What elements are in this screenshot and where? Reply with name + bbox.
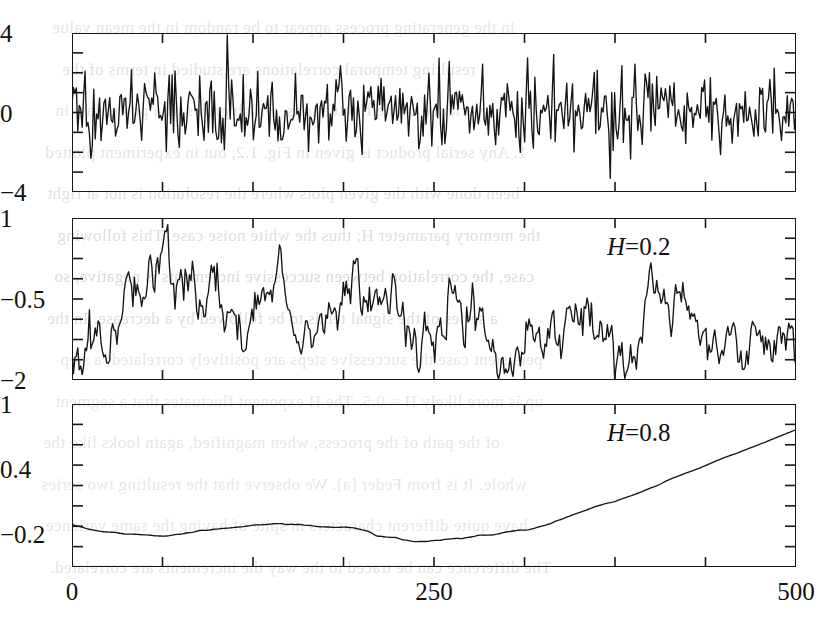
- y-tick-label: −0.2: [0, 522, 62, 547]
- x-tick-label: 500: [777, 579, 815, 604]
- white-noise-trace: [72, 33, 796, 192]
- y-tick-label: −0.5: [0, 287, 62, 312]
- y-tick-label: −4: [0, 180, 62, 205]
- y-tick-label: 4: [0, 21, 62, 46]
- plot-panel-h-08: H=0.8: [72, 404, 796, 567]
- figure-fractional-brownian-motion: H=0.2 H=0.8 40−41−0.5−210.4−0.20250500: [0, 0, 834, 629]
- annotation-symbol: H: [607, 233, 625, 260]
- y-tick-label: 1: [0, 206, 62, 231]
- plot-panel-white-noise: [72, 33, 796, 192]
- annotation-hurst-02: H=0.2: [607, 234, 670, 259]
- annotation-hurst-08: H=0.8: [607, 420, 670, 445]
- y-tick-label: −2: [0, 368, 62, 393]
- annotation-operator: =: [625, 419, 639, 446]
- annotation-symbol: H: [607, 419, 625, 446]
- x-tick-label: 250: [415, 579, 453, 604]
- y-tick-label: 1: [0, 392, 62, 417]
- y-tick-label: 0: [0, 100, 62, 125]
- fbm-h02-trace: [72, 218, 796, 380]
- plot-panel-h-02: H=0.2: [72, 218, 796, 380]
- annotation-value: 0.8: [639, 419, 670, 446]
- fbm-h08-trace: [72, 404, 796, 567]
- y-tick-label: 0.4: [0, 457, 62, 482]
- annotation-operator: =: [625, 233, 639, 260]
- x-tick-label: 0: [66, 579, 79, 604]
- annotation-value: 0.2: [639, 233, 670, 260]
